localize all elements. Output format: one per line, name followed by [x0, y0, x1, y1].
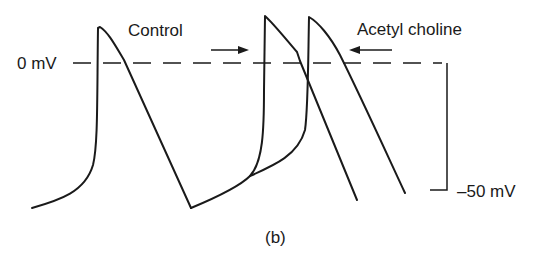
zero-mv-label: 0 mV	[17, 55, 57, 72]
action-potential-diagram: 0 mV Control Acetyl choline –50 mV (b)	[0, 0, 539, 268]
voltage-scale-bar	[430, 63, 447, 190]
arrow-left-icon	[349, 46, 360, 54]
acetylcholine-label: Acetyl choline	[357, 21, 462, 38]
arrow-right-icon	[238, 46, 249, 54]
acetylcholine-action-potential	[250, 17, 405, 193]
control-action-potential-2	[191, 16, 357, 208]
minus-50-mv-label: –50 mV	[457, 183, 516, 200]
control-label: Control	[128, 22, 183, 39]
panel-label: (b)	[265, 229, 286, 246]
